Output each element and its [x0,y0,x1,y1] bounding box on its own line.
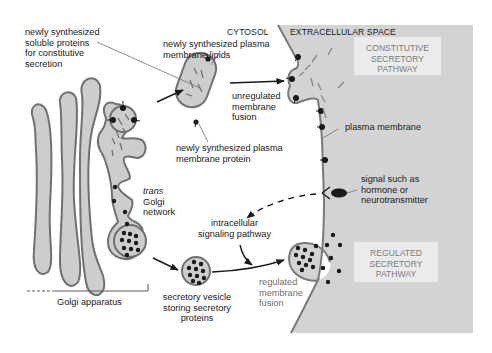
membrane-protein-label: newly synthesized plasma membrane protei… [176,143,283,164]
extracellular-space-label: EXTRACELLULAR SPACE [290,27,396,38]
golgi-cisterna-2 [60,92,80,286]
golgi-apparatus [32,78,146,295]
secretory-storage-vesicle [182,257,210,285]
plasma-membrane-label: plasma membrane [345,122,421,133]
trans-golgi-network-label: trans Golgi network [143,186,175,218]
constitutive-pathway-box: CONSTITUTIVE SECRETORY PATHWAY [354,37,441,75]
cytosol-label: CYTOSOL [227,27,269,38]
soluble-proteins-label: newly synthesized soluble proteins for c… [25,27,100,69]
golgi-cisterna-1 [32,104,52,274]
unregulated-fusion-label: unregulated membrane fusion [232,91,281,123]
arrow-tgn-to-storage-vesicle [153,258,178,270]
golgi-cisterna-3 [80,78,104,295]
golgi-apparatus-label: Golgi apparatus [57,297,122,308]
regulated-fusion-label: regulated membrane fusion [259,277,303,309]
arrow-vesicle-to-membrane [230,81,284,83]
membrane-lipids-label: newly synthesized plasma membrane lipids [163,39,270,60]
intracellular-signaling-label: intracellular signaling pathway [198,218,271,239]
arrow-signal-to-cytosol [247,194,316,218]
arrow-signaling-to-fusion [240,245,252,265]
regulated-pathway-box: REGULATED SECRETORY PATHWAY [354,242,438,282]
secretory-vesicle-label: secretory vesicle storing secretory prot… [162,292,232,324]
signal-label: signal such as hormone or neurotransmitt… [361,174,428,206]
signal-molecule-hormone [331,189,347,198]
